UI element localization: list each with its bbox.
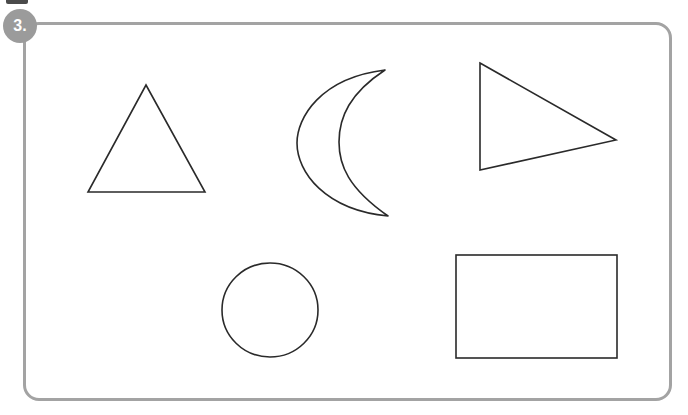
clipped-bar-marker: [6, 0, 28, 4]
step-number-badge: 3.: [3, 9, 37, 43]
shapes-panel-stage: 3.: [0, 0, 688, 415]
